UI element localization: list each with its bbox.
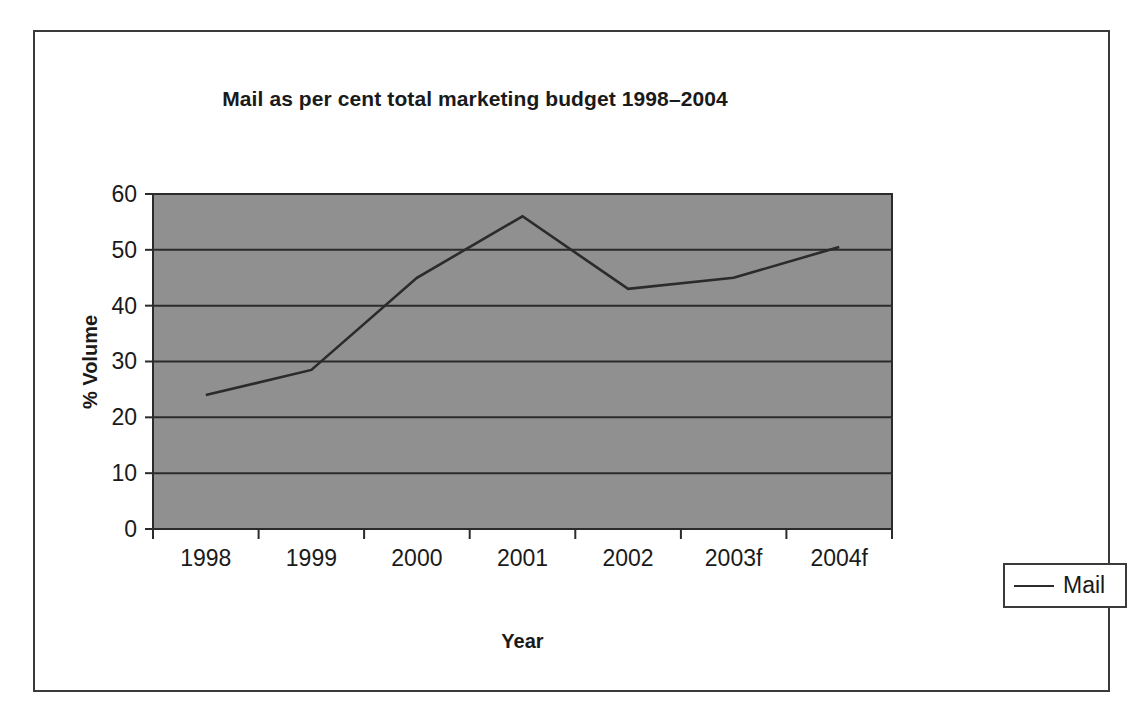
x-tick-label-2000: 2000 xyxy=(391,545,442,571)
y-tick-label-30: 30 xyxy=(111,348,137,374)
chart-plot-svg: 0 10 20 30 40 50 60 1998 1999 2000 2001 … xyxy=(35,32,1108,690)
y-tick-label-20: 20 xyxy=(111,404,137,430)
legend-label-mail: Mail xyxy=(1063,574,1105,597)
x-tick-label-2002: 2002 xyxy=(603,545,654,571)
x-axis-title: Year xyxy=(501,630,543,652)
chart-figure-frame: Mail as per cent total marketing budget … xyxy=(33,30,1110,692)
chart-legend: Mail xyxy=(1003,563,1127,608)
y-tick-label-40: 40 xyxy=(111,293,137,319)
x-tick-label-1998: 1998 xyxy=(180,545,231,571)
x-tick-label-2003f: 2003f xyxy=(705,545,763,571)
y-tick-label-60: 60 xyxy=(111,181,137,207)
x-tick-label-2001: 2001 xyxy=(497,545,548,571)
x-tick-label-2004f: 2004f xyxy=(810,545,868,571)
x-axis-ticks xyxy=(153,529,892,539)
y-tick-label-10: 10 xyxy=(111,460,137,486)
y-tick-label-50: 50 xyxy=(111,237,137,263)
y-tick-label-0: 0 xyxy=(124,516,137,542)
y-axis-ticks xyxy=(145,194,153,529)
x-tick-label-1999: 1999 xyxy=(286,545,337,571)
legend-line-icon xyxy=(1014,585,1054,587)
y-axis-title: % Volume xyxy=(79,315,101,409)
